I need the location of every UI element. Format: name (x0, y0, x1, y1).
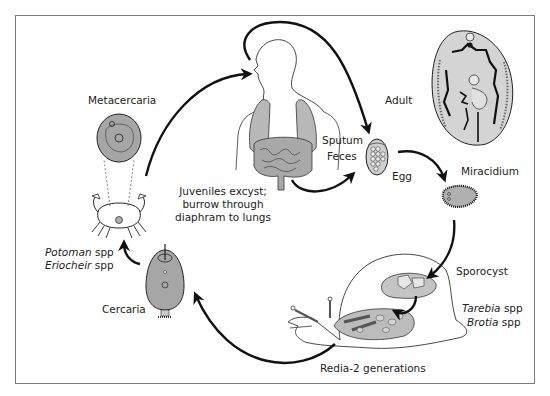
metacercaria-icon (97, 114, 141, 162)
egg-icon (366, 139, 388, 175)
label-miracidium: Miracidium (461, 165, 519, 178)
label-metacercaria: Metacercaria (88, 94, 156, 107)
snail-host-1-genus: Tarebia (462, 302, 501, 314)
arrow-crab-to-human (146, 74, 248, 176)
snail-host-2-genus: Brotia (467, 316, 498, 328)
label-sporocyst: Sporocyst (456, 265, 508, 278)
arrow-cercaria-to-crab (124, 244, 140, 264)
crab-host-icon (92, 160, 146, 238)
adult-fluke-icon (432, 31, 513, 145)
label-crab-host-2: Eriocheir spp (45, 259, 114, 272)
human-host-icon (236, 40, 340, 190)
label-snail-host-2: Brotia spp (467, 316, 521, 329)
label-adult: Adult (385, 94, 412, 107)
crab-host-1-genus: Potoman (45, 246, 92, 258)
label-juveniles: Juveniles excyst; burrow through diaphra… (168, 185, 278, 224)
label-cercaria: Cercaria (102, 303, 146, 316)
crab-host-2-genus: Eriocheir (45, 259, 91, 271)
label-sputum: Sputum (322, 134, 363, 147)
label-snail-host-1: Tarebia spp (462, 302, 523, 315)
arrow-human-to-feces (292, 175, 352, 191)
miracidium-icon (443, 186, 477, 207)
label-feces: Feces (327, 150, 357, 163)
cercaria-icon (146, 244, 184, 317)
label-crab-host-1: Potoman spp (45, 246, 114, 259)
label-redia: Redia-2 generations (320, 362, 426, 375)
label-egg: Egg (392, 170, 412, 183)
